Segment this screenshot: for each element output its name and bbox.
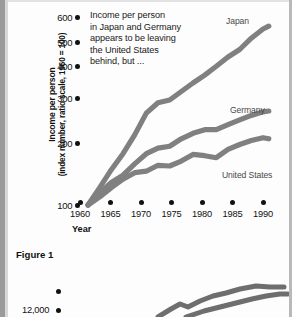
figure2-line-upper (158, 286, 284, 317)
x-axis-ticks: 1960196519701975198019851990 (68, 200, 289, 232)
x-tick-label: 1960 (65, 209, 95, 219)
scan-edge-right (289, 0, 292, 317)
annotation-line-4: the United States (90, 45, 220, 57)
x-tick-label: 1985 (218, 209, 248, 219)
annotation-line-3: appears to be leaving (90, 33, 220, 45)
y-tick-400-label: 400 (57, 61, 72, 72)
y-tick-300: 300 (57, 93, 80, 104)
series-label-japan: Japan (226, 16, 249, 26)
figure2-series-svg (8, 283, 289, 317)
figure-1-chart: Income per person (index number, ratio s… (8, 2, 289, 242)
figure-caption: Figure 1 (16, 249, 53, 260)
x-tick-dot (200, 200, 205, 205)
y-axis-ticks: 600 500 400 300 200 100 (30, 2, 80, 217)
y-tick-500: 500 (57, 37, 80, 48)
y-tick-200: 200 (57, 138, 80, 149)
x-tick-dot (108, 200, 113, 205)
x-tick-dot (261, 200, 266, 205)
annotation-line-5: behind, but ... (90, 56, 220, 68)
x-tick-1975: 1975 (157, 200, 187, 219)
x-tick-1970: 1970 (126, 200, 156, 219)
x-tick-label: 1970 (126, 209, 156, 219)
y-tick-500-label: 500 (57, 37, 72, 48)
x-tick-label: 1990 (248, 209, 278, 219)
y-tick-400: 400 (57, 61, 80, 72)
x-tick-1985: 1985 (218, 200, 248, 219)
series-label-germany: Germany (230, 105, 265, 115)
x-tick-dot (139, 200, 144, 205)
x-tick-label: 1975 (157, 209, 187, 219)
y-tick-600-label: 600 (57, 12, 72, 23)
x-tick-1980: 1980 (187, 200, 217, 219)
x-tick-1965: 1965 (96, 200, 126, 219)
annotation-line-1: Income per person (90, 10, 220, 22)
x-tick-dot (78, 200, 83, 205)
y-tick-600: 600 (57, 12, 80, 23)
page-canvas: Income per person (index number, ratio s… (0, 0, 292, 317)
chart-annotation: Income per person in Japan and Germany a… (90, 10, 220, 68)
x-tick-1990: 1990 (248, 200, 278, 219)
x-tick-label: 1965 (96, 209, 126, 219)
x-tick-dot (169, 200, 174, 205)
figure2-line-lower (186, 294, 288, 317)
x-tick-dot (230, 200, 235, 205)
y-tick-300-label: 300 (57, 93, 72, 104)
y-tick-200-label: 200 (57, 138, 72, 149)
line-germany (88, 111, 269, 205)
figure-2-partial: 12,000 (8, 283, 289, 317)
x-tick-label: 1980 (187, 209, 217, 219)
x-tick-1960: 1960 (65, 200, 95, 219)
annotation-line-2: in Japan and Germany (90, 22, 220, 34)
x-axis-title: Year (72, 224, 91, 234)
series-label-united-states: United States (222, 170, 272, 180)
